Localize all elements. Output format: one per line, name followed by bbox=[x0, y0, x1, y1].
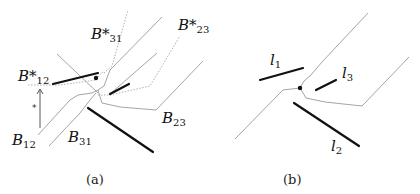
label-l1: l1 bbox=[270, 53, 281, 70]
curve-b23 bbox=[98, 61, 203, 110]
segment-l2 bbox=[294, 103, 359, 146]
label-b-star-31: B*31 bbox=[91, 27, 122, 44]
arrow-star-label: * bbox=[32, 103, 37, 113]
thick-segment-l2 bbox=[88, 108, 153, 152]
thick-segment-l1 bbox=[53, 73, 98, 84]
caption-a: (a) bbox=[86, 172, 104, 187]
label-b-23: B23 bbox=[162, 111, 186, 128]
panel-b-figure bbox=[235, 13, 409, 146]
segment-l1 bbox=[260, 68, 303, 80]
label-b-star-23: B*23 bbox=[178, 18, 209, 35]
label-b-12: B12 bbox=[12, 133, 36, 150]
segment-l3 bbox=[316, 80, 336, 90]
curve-b-upper bbox=[300, 13, 368, 88]
curve-b-right bbox=[300, 57, 409, 106]
curve-b-left bbox=[235, 88, 300, 139]
dotted-b-star-23 bbox=[98, 36, 180, 95]
label-b-star-12: B*12 bbox=[18, 69, 49, 86]
caption-b: (b) bbox=[283, 172, 301, 187]
vertex-point bbox=[94, 76, 98, 80]
label-b-31: B31 bbox=[68, 130, 92, 147]
diagram-canvas bbox=[0, 0, 420, 194]
label-l2: l2 bbox=[331, 139, 342, 156]
curve-middle bbox=[110, 53, 157, 94]
label-l3: l3 bbox=[342, 66, 353, 83]
vertex-point-b bbox=[298, 86, 302, 90]
